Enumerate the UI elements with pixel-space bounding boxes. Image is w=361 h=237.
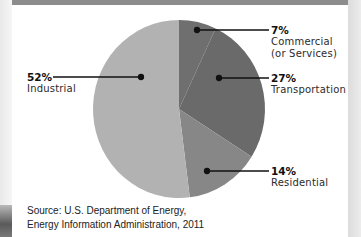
label-industrial: 52% Industrial xyxy=(27,71,76,95)
source-note: Source: U.S. Department of Energy, Energ… xyxy=(27,204,204,231)
industrial-percent: 52% xyxy=(27,71,76,83)
label-commercial: 7% Commercial (or Services) xyxy=(271,24,337,60)
label-residential: 14% Residential xyxy=(271,165,328,189)
commercial-subname: (or Services) xyxy=(271,48,337,60)
transportation-name: Transportation xyxy=(271,84,346,96)
commercial-name: Commercial xyxy=(271,36,337,48)
pie-slice-industrial xyxy=(93,20,190,198)
source-line-1: Source: U.S. Department of Energy, xyxy=(27,204,204,218)
residential-name: Residential xyxy=(271,177,328,189)
source-line-2: Energy Information Administration, 2011 xyxy=(27,218,204,232)
residential-percent: 14% xyxy=(271,165,328,177)
label-transportation: 27% Transportation xyxy=(271,72,346,96)
industrial-name: Industrial xyxy=(27,83,76,95)
transportation-percent: 27% xyxy=(271,72,346,84)
commercial-percent: 7% xyxy=(271,24,337,36)
